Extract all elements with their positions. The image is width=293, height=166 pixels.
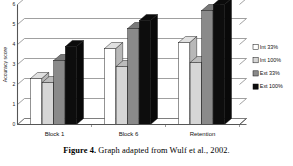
- x-category-label: Block 6: [119, 131, 139, 137]
- figure-container: 0123456Accuracy scoreBlock 1Block 6Reten…: [0, 0, 293, 166]
- y-tick-label: 0: [13, 121, 16, 127]
- gridline-depth: [18, 19, 25, 25]
- legend-label: Ext 33%: [260, 70, 280, 76]
- bar: [139, 15, 157, 125]
- gridline-depth-right: [240, 99, 247, 105]
- figure-caption-label: Figure 4.: [63, 146, 96, 155]
- y-axis-title: Accuracy score: [2, 47, 8, 83]
- legend-item[interactable]: Int 100%: [253, 57, 281, 63]
- legend-item[interactable]: Ext 100%: [253, 83, 283, 89]
- legend-item[interactable]: Ext 33%: [253, 70, 280, 76]
- gridline-depth: [18, 39, 25, 45]
- bar-front-face: [65, 47, 76, 125]
- bar-front-face: [179, 43, 190, 125]
- bar-front-face: [190, 63, 201, 125]
- gridline-depth-right: [240, 59, 247, 65]
- bar-front-face: [105, 49, 116, 125]
- bar-front-face: [54, 61, 65, 125]
- x-category-label: Block 1: [45, 131, 65, 137]
- bar-front-face: [128, 29, 139, 125]
- bar-front-face: [139, 21, 150, 125]
- legend-item[interactable]: Int 33%: [253, 44, 278, 50]
- gridline-depth: [18, 59, 25, 65]
- bar-front-face: [42, 83, 53, 125]
- bar: [213, 0, 231, 125]
- y-tick-label: 3: [13, 61, 16, 67]
- y-tick-label: 2: [13, 81, 16, 87]
- gridline-depth: [18, 0, 25, 5]
- x-category-label: Retention: [190, 131, 216, 137]
- figure-caption: Figure 4. Graph adapted from Wulf et al.…: [0, 146, 293, 155]
- legend-swatch: [253, 71, 258, 76]
- chart-area: 0123456Accuracy scoreBlock 1Block 6Reten…: [0, 0, 293, 144]
- legend-swatch: [253, 84, 258, 89]
- bar-front-face: [31, 79, 42, 125]
- bar-side-face: [77, 41, 84, 125]
- bar-side-face: [225, 0, 232, 125]
- y-tick-labels: 0123456: [13, 1, 16, 127]
- gridline-depth: [18, 79, 25, 85]
- legend: Int 33%Int 100%Ext 33%Ext 100%: [253, 44, 283, 90]
- bar-side-face: [151, 15, 158, 125]
- y-tick-label: 1: [13, 101, 16, 107]
- bar: [65, 41, 83, 125]
- gridline-depth-right: [240, 0, 247, 5]
- accuracy-score-bar-chart: 0123456Accuracy scoreBlock 1Block 6Reten…: [0, 0, 293, 144]
- y-tick-label: 5: [13, 21, 16, 27]
- legend-swatch: [253, 58, 258, 63]
- bar-front-face: [202, 11, 213, 125]
- y-tick-label: 6: [13, 1, 16, 7]
- legend-label: Int 33%: [260, 44, 278, 50]
- gridline-depth-right: [240, 39, 247, 45]
- legend-label: Int 100%: [260, 57, 281, 63]
- legend-label: Ext 100%: [260, 83, 283, 89]
- figure-caption-text: Graph adapted from Wulf et al., 2002.: [98, 146, 229, 155]
- gridline-depth-right: [240, 19, 247, 25]
- bar-front-face: [116, 67, 127, 125]
- y-tick-label: 4: [13, 41, 16, 47]
- gridline-depth-right: [240, 79, 247, 85]
- gridline-depth: [18, 99, 25, 105]
- bar-front-face: [213, 5, 224, 125]
- x-category-labels: Block 1Block 6Retention: [45, 125, 240, 137]
- legend-swatch: [253, 44, 258, 49]
